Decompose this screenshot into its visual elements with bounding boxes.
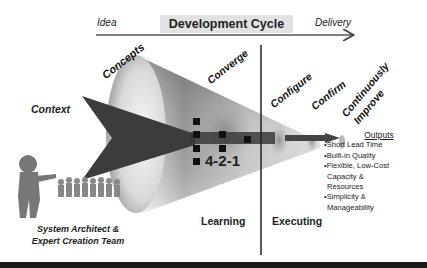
outputs-item: Capacity &: [324, 172, 424, 182]
architect-figure: [18, 155, 56, 218]
square-four-2: [193, 131, 200, 138]
team-caption-line2: Expert Creation Team: [18, 235, 138, 247]
outputs-item: •Short Lead Time: [324, 140, 424, 150]
team-caption-line1: System Architect &: [18, 223, 138, 235]
square-four-3: [193, 145, 200, 152]
outputs-item: •Flexible, Low-Cost: [324, 161, 424, 171]
square-two-1: [219, 131, 226, 138]
development-cycle-diagram: Development Cycle Idea Delivery: [0, 0, 427, 268]
outputs-list: Outputs •Short Lead Time •Built-in Quali…: [324, 130, 424, 213]
outputs-item: Manageability: [324, 203, 424, 213]
outputs-title: Outputs: [334, 130, 424, 140]
team-figures: [58, 177, 120, 197]
square-one: [244, 136, 251, 143]
context-label: Context: [31, 103, 70, 115]
outputs-item: •Built-in Quality: [324, 151, 424, 161]
learning-label: Learning: [201, 215, 245, 227]
outputs-item: Resources: [324, 182, 424, 192]
square-four-1: [193, 118, 200, 125]
square-four-4: [193, 158, 200, 165]
central-shaft: [190, 132, 275, 144]
square-two-2: [219, 145, 226, 152]
footer-bar: [0, 262, 427, 268]
executing-label: Executing: [272, 215, 322, 227]
four-two-one-label: 4-2-1: [205, 152, 240, 169]
outputs-item: •Simplicity &: [324, 192, 424, 202]
team-caption: System Architect & Expert Creation Team: [18, 223, 138, 247]
